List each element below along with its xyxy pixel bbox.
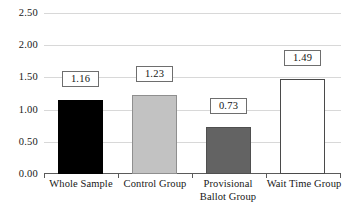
bar-chart: 2.50 2.00 1.50 1.00 0.50 0.00 1.16 1.23 … [0, 0, 352, 218]
y-axis-tick-label: 1.50 [0, 72, 38, 82]
bar-control-group [132, 95, 177, 174]
gridline-2-50 [44, 13, 341, 14]
x-axis-label-whole-sample: Whole Sample [42, 177, 120, 190]
y-axis-tick-label: 2.50 [0, 8, 38, 18]
x-axis-label-wait-time-group: Wait Time Group [264, 177, 344, 190]
bar-value-label-wait-time-group: 1.49 [284, 50, 321, 66]
bar-provisional-ballot-group [206, 127, 251, 174]
bar-value-label-whole-sample: 1.16 [62, 71, 99, 87]
x-axis-labels: Whole Sample Control Group Provisional B… [44, 177, 341, 217]
y-axis-tick-label: 1.00 [0, 105, 38, 115]
bar-value-label-control-group: 1.23 [136, 66, 173, 82]
y-axis-tick-label: 2.00 [0, 40, 38, 50]
x-axis-label-control-group: Control Group [116, 177, 194, 190]
y-axis-tick-label: 0.50 [0, 137, 38, 147]
bar-wait-time-group [280, 79, 325, 174]
y-axis-tick-label: 0.00 [0, 169, 38, 179]
bar-whole-sample [58, 100, 103, 174]
gridline-2-00 [44, 45, 341, 46]
bar-value-label-provisional-ballot-group: 0.73 [210, 98, 247, 114]
plot-area: 1.16 1.23 0.73 1.49 [44, 13, 341, 174]
x-axis-label-provisional-ballot-group: Provisional Ballot Group [192, 177, 264, 203]
